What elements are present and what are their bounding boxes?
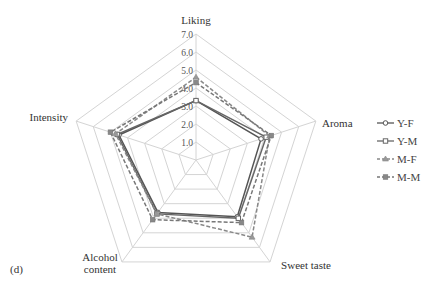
tick-label: 5.0 bbox=[181, 66, 193, 76]
legend-label: Y-F bbox=[397, 117, 414, 129]
tick-label: 7.0 bbox=[181, 30, 193, 40]
axis-label-alcohol-content: Alcoholcontent bbox=[82, 251, 117, 275]
legend-label: M-M bbox=[397, 171, 420, 183]
axis-label-aroma: Aroma bbox=[322, 117, 353, 129]
legend-item: Y-F bbox=[377, 117, 414, 129]
legend-item: M-F bbox=[377, 153, 417, 165]
tick-label: 2.0 bbox=[181, 120, 193, 130]
tick-label: 6.0 bbox=[181, 48, 193, 58]
legend-item: Y-M bbox=[377, 135, 417, 147]
tick-label: 1.0 bbox=[181, 138, 193, 148]
axis-label-sweet-taste: Sweet taste bbox=[281, 259, 331, 271]
legend-label: Y-M bbox=[397, 135, 417, 147]
legend-label: M-F bbox=[397, 153, 417, 165]
legend-item: M-M bbox=[377, 171, 420, 183]
grid bbox=[76, 34, 316, 262]
axis-label-intensity: Intensity bbox=[30, 111, 69, 123]
panel-label: (d) bbox=[10, 263, 23, 276]
axis-label-liking: Liking bbox=[181, 14, 211, 26]
legend: Y-FY-MM-FM-M bbox=[377, 117, 420, 183]
radar-chart: 1.02.03.04.05.06.07.0LikingAromaSweet ta… bbox=[0, 0, 441, 294]
